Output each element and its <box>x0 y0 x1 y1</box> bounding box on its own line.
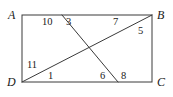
vertex-label-b: B <box>157 9 164 21</box>
angle-label-8: 8 <box>121 71 126 82</box>
angle-label-3: 3 <box>66 17 71 28</box>
vertex-label-c: C <box>157 76 165 88</box>
geometry-figure: ABCD1037511168 <box>0 0 173 97</box>
angle-label-10: 10 <box>42 17 53 28</box>
angle-label-7: 7 <box>113 17 118 28</box>
angle-label-1: 1 <box>48 71 53 82</box>
vertex-label-a: A <box>8 9 15 21</box>
angle-label-6: 6 <box>100 71 105 82</box>
angle-label-11: 11 <box>27 60 37 71</box>
vertex-label-d: D <box>7 76 16 88</box>
angle-label-5: 5 <box>138 26 143 37</box>
figure-canvas <box>0 0 173 97</box>
